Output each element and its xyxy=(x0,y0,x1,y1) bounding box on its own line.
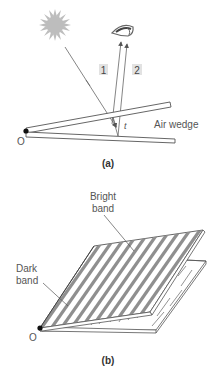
dark-band-label-line1: Dark xyxy=(16,263,38,274)
contact-point xyxy=(23,128,28,133)
bright-band-label-line2: band xyxy=(92,203,114,214)
sun-icon xyxy=(39,9,71,41)
ray-1-label: 1 xyxy=(101,65,107,76)
upper-glass-plate xyxy=(26,102,171,133)
caption-b: (b) xyxy=(102,355,115,366)
lower-glass-plate xyxy=(26,132,175,143)
origin-label-a: O xyxy=(17,136,25,147)
bright-band-label-line1: Bright xyxy=(90,191,116,202)
caption-a: (a) xyxy=(102,158,114,169)
dark-band-label-line2: band xyxy=(16,275,38,286)
panel-a: 1 2 t O Air wedge (a) xyxy=(17,9,199,169)
air-wedge-label: Air wedge xyxy=(154,119,199,130)
thickness-label: t xyxy=(124,121,127,131)
air-wedge-diagram: 1 2 t O Air wedge (a) xyxy=(0,0,216,367)
contact-point-b xyxy=(37,325,42,330)
panel-b: O Bright band Dark band (b) xyxy=(16,191,216,366)
ray-2-label: 2 xyxy=(134,65,140,76)
eye-icon xyxy=(112,25,133,36)
origin-label-b: O xyxy=(29,332,37,343)
